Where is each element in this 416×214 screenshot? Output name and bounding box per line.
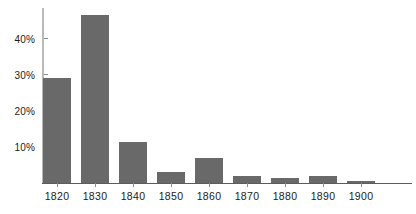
bar — [157, 172, 185, 183]
x-axis-tick-mark — [209, 183, 210, 187]
bar — [309, 176, 337, 183]
x-axis-tick-mark — [247, 183, 248, 187]
x-axis-tick-mark — [285, 183, 286, 187]
bar — [195, 158, 223, 183]
bar — [119, 142, 147, 183]
x-axis-tick-mark — [133, 183, 134, 187]
x-axis-tick-mark — [323, 183, 324, 187]
x-axis-tick-label: 1890 — [311, 190, 336, 202]
x-axis-tick-mark — [95, 183, 96, 187]
x-axis-tick-label: 1850 — [159, 190, 184, 202]
plot-area — [42, 8, 412, 183]
y-axis-tick-label: 40% — [14, 33, 42, 44]
x-axis-tick-label: 1820 — [45, 190, 70, 202]
x-axis-tick-mark — [57, 183, 58, 187]
x-axis-tick-label: 1840 — [121, 190, 146, 202]
bar-chart: 10%20%30%40% 182018301840185018601870188… — [0, 0, 416, 214]
x-axis-tick-mark — [361, 183, 362, 187]
y-axis-tick-label: 20% — [14, 105, 42, 116]
bar — [81, 15, 109, 183]
bar — [233, 176, 261, 183]
bar — [43, 78, 71, 183]
x-axis-tick-label: 1880 — [273, 190, 298, 202]
x-axis-tick-label: 1860 — [197, 190, 222, 202]
x-axis-tick-label: 1870 — [235, 190, 260, 202]
x-axis-tick-mark — [171, 183, 172, 187]
x-axis-line — [42, 183, 412, 184]
x-axis-tick-label: 1830 — [83, 190, 108, 202]
y-axis-tick-label: 10% — [14, 141, 42, 152]
x-axis-tick-label: 1900 — [349, 190, 374, 202]
y-axis-tick-label: 30% — [14, 69, 42, 80]
